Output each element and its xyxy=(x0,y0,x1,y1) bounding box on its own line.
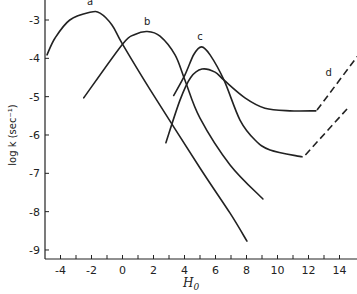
y-tick-label: -5 xyxy=(29,91,40,104)
series-label-a: a xyxy=(87,0,93,7)
y-tick-label: -4 xyxy=(29,52,40,65)
series-label-d-extension: d xyxy=(325,67,331,78)
series-a xyxy=(47,11,247,241)
curve-labels: abcd xyxy=(87,0,332,78)
x-axis-label: H0 xyxy=(182,276,199,292)
y-tick-label: -3 xyxy=(29,14,40,27)
x-tick-label: 0 xyxy=(119,264,126,277)
x-axis-label-H: H xyxy=(182,276,194,290)
x-tick-label: -4 xyxy=(55,264,66,277)
x-tick-label: -2 xyxy=(86,264,97,277)
series-d xyxy=(166,69,316,143)
ticks: -4-202468101214-3-4-5-6-7-8-9 xyxy=(29,14,346,277)
x-tick-label: 8 xyxy=(243,264,250,277)
x-tick-label: 14 xyxy=(333,264,347,277)
series-b xyxy=(84,31,263,199)
curves xyxy=(47,11,357,241)
series-d-extension xyxy=(317,56,357,110)
x-tick-label: 12 xyxy=(302,264,316,277)
y-tick-label: -8 xyxy=(29,206,40,219)
series-c-extension xyxy=(305,107,348,155)
chart: -4-202468101214-3-4-5-6-7-8-9 abcd H0 lo… xyxy=(0,0,357,294)
y-tick-label: -9 xyxy=(29,244,40,257)
y-axis-label: log k (sec⁻¹) xyxy=(7,104,18,165)
y-tick-label: -6 xyxy=(29,129,40,142)
x-tick-label: 6 xyxy=(212,264,219,277)
x-tick-label: 2 xyxy=(150,264,157,277)
series-label-b: b xyxy=(144,16,150,27)
y-tick-label: -7 xyxy=(29,167,40,180)
series-label-c: c xyxy=(197,31,203,42)
x-axis-label-sub: 0 xyxy=(193,282,199,292)
x-tick-label: 10 xyxy=(271,264,285,277)
